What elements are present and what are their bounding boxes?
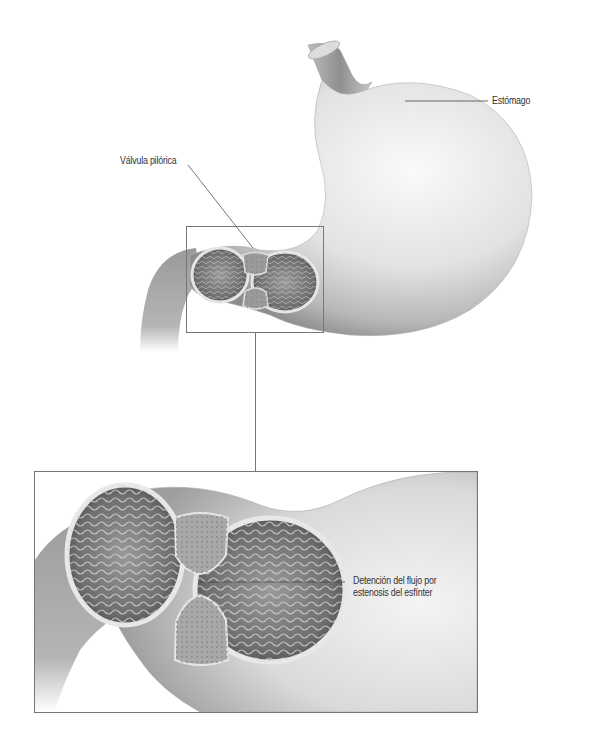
label-stenosis: Detención del flujo por estenosis del es… <box>353 575 459 599</box>
pyloric-valve-leader-line <box>188 165 253 248</box>
label-stenosis-line1: Detención del flujo por <box>353 575 459 587</box>
diagram-canvas: Estómago Válvula pilórica Detención del … <box>0 0 593 746</box>
label-stenosis-line2: estenosis del esfínter <box>353 587 459 599</box>
stomach-overview <box>140 37 532 471</box>
label-stomach: Estómago <box>492 95 530 106</box>
pylorus-cutaway-small <box>192 248 318 312</box>
stomach-illustration <box>0 0 593 746</box>
label-pyloric-valve: Válvula pilórica <box>120 155 176 166</box>
stomach <box>190 80 532 336</box>
